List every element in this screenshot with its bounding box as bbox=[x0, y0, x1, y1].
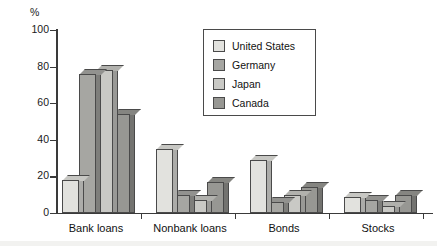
legend-swatch bbox=[213, 78, 225, 90]
x-category-label: Bank loans bbox=[42, 222, 150, 234]
y-tick-label: 80 bbox=[19, 61, 49, 72]
legend-item: Canada bbox=[213, 93, 315, 112]
x-tick-mark bbox=[141, 213, 142, 219]
legend-swatch bbox=[213, 59, 225, 71]
legend-item: United States bbox=[213, 36, 315, 55]
y-tick-mark bbox=[50, 103, 57, 104]
bar-side-face bbox=[113, 70, 118, 213]
bar-front-face bbox=[156, 149, 173, 213]
y-axis-line bbox=[56, 29, 58, 214]
y-tick-label: 60 bbox=[19, 97, 49, 108]
bar-side-face bbox=[79, 180, 84, 213]
bar-side-face bbox=[96, 74, 101, 213]
bar-side-face bbox=[378, 200, 383, 213]
y-tick-label: 100 bbox=[19, 24, 49, 35]
legend-label: Germany bbox=[232, 59, 275, 71]
bar-side-face bbox=[130, 114, 135, 213]
bar bbox=[250, 160, 267, 213]
bar-side-face bbox=[284, 202, 289, 213]
bar bbox=[344, 197, 361, 213]
legend-swatch bbox=[213, 40, 225, 52]
legend-item: Japan bbox=[213, 74, 315, 93]
x-tick-mark bbox=[423, 213, 424, 219]
chart-legend: United StatesGermanyJapanCanada bbox=[203, 29, 316, 116]
x-category-label: Bonds bbox=[230, 222, 338, 234]
y-tick-label: 0 bbox=[19, 207, 49, 218]
bar-side-face bbox=[301, 195, 306, 213]
bar-side-face bbox=[190, 195, 195, 213]
x-category-label: Nonbank loans bbox=[136, 222, 244, 234]
y-tick-mark bbox=[50, 30, 57, 31]
bar-front-face bbox=[62, 180, 79, 213]
x-tick-mark bbox=[329, 213, 330, 219]
bar-side-face bbox=[207, 200, 212, 213]
y-tick-mark bbox=[50, 213, 57, 214]
y-tick-mark bbox=[50, 67, 57, 68]
bar bbox=[156, 149, 173, 213]
x-tick-mark bbox=[235, 213, 236, 219]
legend-item: Germany bbox=[213, 55, 315, 74]
bar-side-face bbox=[267, 160, 272, 213]
y-tick-label: 20 bbox=[19, 170, 49, 181]
x-category-label: Stocks bbox=[324, 222, 432, 234]
y-tick-mark bbox=[50, 176, 57, 177]
y-tick-mark bbox=[50, 140, 57, 141]
legend-label: Canada bbox=[232, 97, 269, 109]
chart-figure: % 100806040200 Bank loansNonbank loansBo… bbox=[0, 0, 437, 246]
bar bbox=[62, 180, 79, 213]
bar-side-face bbox=[173, 149, 178, 213]
bar-side-face bbox=[361, 197, 366, 213]
plot-area: % 100806040200 Bank loansNonbank loansBo… bbox=[0, 0, 437, 246]
legend-label: Japan bbox=[232, 78, 261, 90]
y-axis-unit-label: % bbox=[30, 6, 39, 18]
bar-side-face bbox=[224, 182, 229, 213]
bar-front-face bbox=[344, 197, 361, 213]
y-tick-label: 40 bbox=[19, 134, 49, 145]
bar-side-face bbox=[412, 195, 417, 213]
legend-swatch bbox=[213, 97, 225, 109]
bar-front-face bbox=[250, 160, 267, 213]
bar-side-face bbox=[318, 187, 323, 213]
page-bottom-edge bbox=[0, 241, 437, 246]
legend-label: United States bbox=[232, 40, 295, 52]
